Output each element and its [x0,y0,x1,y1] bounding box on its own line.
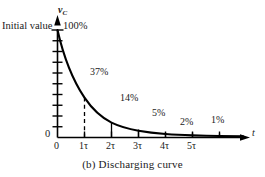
annotation-2-percent: 2% [180,117,193,127]
annotation-100-percent: 100% [63,21,88,32]
annotation-37-percent: 37% [90,67,108,77]
discharging-curve-figure: vC Initial value 100% 37% 14% 5% 2% 1% 0… [0,0,265,177]
y-axis-title: vC [58,5,67,17]
y-axis-zero-label: 0 [45,129,50,140]
y-axis-title-subscript: C [62,9,67,17]
annotation-1-percent: 1% [211,115,224,125]
x-tick-label-4tau: 4τ [160,140,169,151]
annotation-14-percent: 14% [120,93,138,103]
figure-caption: (b) Discharging curve [0,158,265,170]
x-tick-label-2tau: 2τ [106,140,115,151]
initial-value-label: Initial value [2,21,52,32]
x-axis-title: t [252,128,255,138]
x-tick-label-5tau: 5τ [187,140,196,151]
x-tick-label-3tau: 3τ [133,140,142,151]
annotation-5-percent: 5% [152,108,165,118]
x-tick-label-0: 0 [54,140,59,151]
x-tick-label-1tau: 1τ [79,140,88,151]
